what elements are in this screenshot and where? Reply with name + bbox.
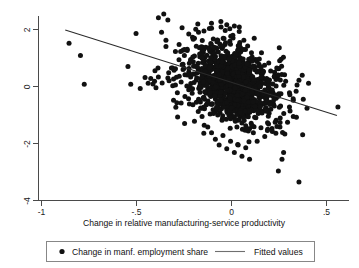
x-tick-label-neg05: -.5 bbox=[132, 207, 142, 217]
scatter-point bbox=[282, 131, 287, 136]
scatter-point bbox=[224, 22, 229, 27]
scatter-point bbox=[188, 58, 193, 63]
scatter-point bbox=[236, 70, 241, 75]
scatter-point bbox=[212, 51, 217, 56]
scatter-point bbox=[233, 86, 238, 91]
scatter-point bbox=[247, 157, 252, 162]
scatter-point bbox=[265, 128, 270, 133]
scatter-point bbox=[266, 83, 271, 88]
scatter-point bbox=[281, 150, 286, 155]
scatter-point bbox=[182, 47, 187, 52]
scatter-point bbox=[228, 42, 233, 47]
scatter-point bbox=[288, 108, 293, 113]
scatter-point bbox=[296, 78, 301, 83]
scatter-point bbox=[198, 105, 203, 110]
scatter-point bbox=[294, 115, 299, 120]
scatter-point bbox=[163, 38, 168, 43]
scatter-point bbox=[265, 120, 270, 125]
scatter-point bbox=[255, 91, 260, 96]
scatter-point bbox=[249, 89, 254, 94]
scatter-plot-figure: 2 0 -2 -4 -1 -.5 0 .5 Change in relative… bbox=[0, 0, 359, 268]
scatter-point bbox=[281, 111, 286, 116]
scatter-point bbox=[242, 118, 247, 123]
scatter-point bbox=[220, 113, 225, 118]
scatter-point bbox=[201, 95, 206, 100]
scatter-point bbox=[287, 92, 292, 97]
x-axis-title: Change in relative manufacturing-service… bbox=[83, 218, 286, 228]
scatter-point bbox=[222, 54, 227, 59]
scatter-point bbox=[278, 115, 283, 120]
scatter-point bbox=[167, 78, 172, 83]
scatter-point bbox=[128, 82, 133, 87]
scatter-point bbox=[243, 145, 248, 150]
scatter-point bbox=[179, 79, 184, 84]
scatter-point bbox=[251, 130, 256, 135]
scatter-point bbox=[279, 57, 284, 62]
scatter-point bbox=[228, 139, 233, 144]
scatter-point bbox=[173, 49, 178, 54]
scatter-point bbox=[156, 15, 161, 20]
scatter-point bbox=[166, 70, 171, 75]
scatter-point bbox=[179, 101, 184, 106]
scatter-point bbox=[267, 102, 272, 107]
scatter-point bbox=[236, 43, 241, 48]
scatter-point bbox=[259, 64, 264, 69]
plot-canvas: 2 0 -2 -4 -1 -.5 0 .5 Change in relative… bbox=[0, 0, 359, 268]
scatter-point bbox=[174, 100, 179, 105]
scatter-point bbox=[213, 84, 218, 89]
scatter-point bbox=[291, 96, 296, 101]
scatter-point bbox=[202, 123, 207, 128]
scatter-point bbox=[262, 134, 267, 139]
scatter-point bbox=[251, 63, 256, 68]
scatter-point bbox=[160, 81, 165, 86]
scatter-point bbox=[264, 98, 269, 103]
scatter-point bbox=[266, 61, 271, 66]
scatter-point bbox=[213, 137, 218, 142]
scatter-point bbox=[222, 36, 227, 41]
scatter-point bbox=[208, 41, 213, 46]
scatter-point bbox=[219, 24, 224, 29]
y-tick-label-neg2: -2 bbox=[22, 140, 32, 148]
scatter-point bbox=[146, 81, 151, 86]
scatter-point bbox=[192, 119, 197, 124]
scatter-point bbox=[285, 120, 290, 125]
scatter-point bbox=[218, 98, 223, 103]
scatter-point bbox=[210, 102, 215, 107]
scatter-point bbox=[236, 61, 241, 66]
scatter-point bbox=[138, 86, 143, 91]
scatter-point bbox=[214, 105, 219, 110]
x-tick-label-05: .5 bbox=[323, 207, 330, 217]
scatter-point bbox=[156, 75, 161, 80]
scatter-point bbox=[217, 142, 222, 147]
scatter-point bbox=[270, 88, 275, 93]
scatter-point bbox=[199, 44, 204, 49]
x-axis-tick-labels: -1 -.5 0 .5 bbox=[38, 207, 331, 217]
scatter-point bbox=[208, 90, 213, 95]
scatter-point bbox=[300, 132, 305, 137]
scatter-point bbox=[170, 83, 175, 88]
scatter-point bbox=[200, 38, 205, 43]
scatter-point bbox=[258, 104, 263, 109]
scatter-point bbox=[134, 31, 139, 36]
scatter-point bbox=[215, 113, 220, 118]
scatter-point bbox=[243, 88, 248, 93]
scatter-point bbox=[203, 63, 208, 68]
scatter-point bbox=[270, 126, 275, 131]
scatter-point bbox=[249, 123, 254, 128]
scatter-point bbox=[182, 121, 187, 126]
scatter-point bbox=[244, 126, 249, 131]
scatter-point bbox=[295, 83, 300, 88]
x-tick-label-0: 0 bbox=[229, 207, 234, 217]
scatter-point bbox=[163, 44, 168, 49]
scatter-point bbox=[224, 49, 229, 54]
scatter-point bbox=[244, 61, 249, 66]
legend-label-scatter: Change in manf. employment share bbox=[72, 247, 208, 257]
scatter-point bbox=[192, 80, 197, 85]
scatter-point bbox=[235, 98, 240, 103]
scatter-point bbox=[195, 65, 200, 70]
scatter-point bbox=[208, 55, 213, 60]
scatter-point bbox=[252, 77, 257, 82]
scatter-point bbox=[209, 130, 214, 135]
scatter-point bbox=[241, 75, 246, 80]
scatter-point bbox=[208, 60, 213, 65]
